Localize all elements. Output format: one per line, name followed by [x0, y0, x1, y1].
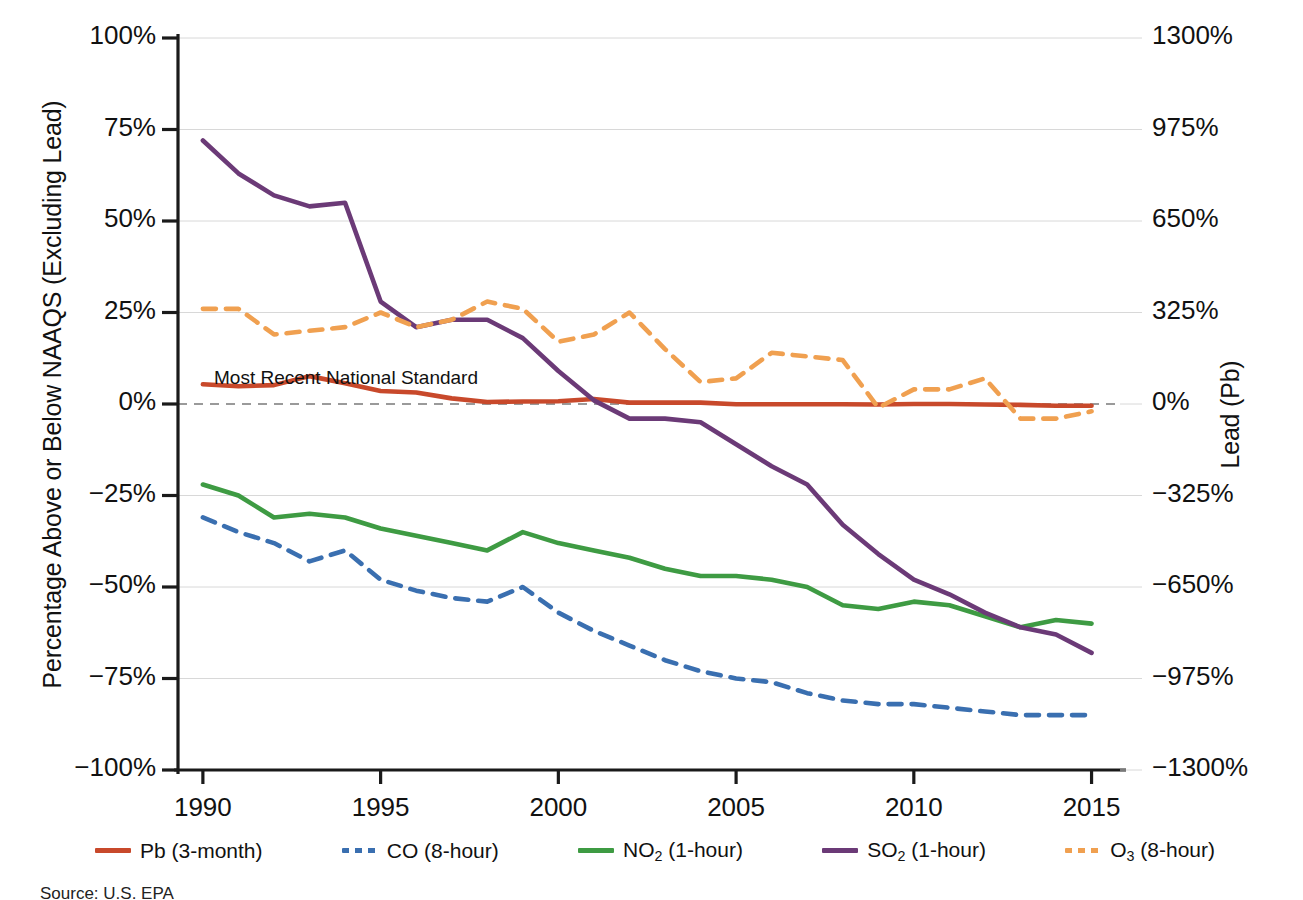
- y-tick-label-left: 50%: [104, 203, 156, 234]
- y-tick-label-left: −50%: [89, 569, 156, 600]
- y-tick-label-right: −1300%: [1152, 752, 1248, 783]
- x-tick-label: 1995: [321, 792, 441, 823]
- y-tick-label-right: 650%: [1152, 203, 1219, 234]
- series-line-co-8-hour: [203, 517, 1092, 715]
- x-tick-label: 2005: [676, 792, 796, 823]
- legend-item-so2-1-hour[interactable]: SO2 (1-hour): [822, 838, 986, 864]
- x-tick-label: 2000: [498, 792, 618, 823]
- legend-swatch-icon: [1065, 848, 1101, 853]
- legend-item-label: NO2 (1-hour): [623, 838, 743, 864]
- legend-swatch-icon: [95, 848, 131, 853]
- x-tick-label: 2010: [854, 792, 974, 823]
- legend-swatch-icon: [578, 848, 614, 853]
- series-line-no2-1-hour: [203, 485, 1092, 628]
- legend-item-label: O3 (8-hour): [1110, 838, 1215, 864]
- y-tick-label-right: −975%: [1152, 661, 1234, 692]
- y-tick-label-left: 100%: [90, 20, 157, 51]
- legend-item-o3-8-hour[interactable]: O3 (8-hour): [1065, 838, 1215, 864]
- y-tick-label-left: −25%: [89, 478, 156, 509]
- legend-item-no2-1-hour[interactable]: NO2 (1-hour): [578, 838, 743, 864]
- annotation-zero-reference-line-label: Most Recent National Standard: [214, 367, 478, 389]
- y-tick-label-left: 75%: [104, 112, 156, 143]
- y-tick-label-right: 325%: [1152, 295, 1219, 326]
- y-tick-label-right: −325%: [1152, 478, 1234, 509]
- chart-legend: Pb (3-month)CO (8-hour)NO2 (1-hour)SO2 (…: [95, 838, 1215, 864]
- x-tick-label: 2015: [1032, 792, 1152, 823]
- chart-plot-area: [0, 0, 1303, 900]
- y-tick-label-left: −75%: [89, 661, 156, 692]
- x-tick-label: 1990: [143, 792, 263, 823]
- air-quality-trend-chart: Percentage Above or Below NAAQS (Excludi…: [0, 0, 1303, 900]
- y-tick-label-left: −100%: [74, 752, 156, 783]
- source-note: Source: U.S. EPA: [40, 884, 174, 900]
- legend-item-label: Pb (3-month): [140, 839, 263, 863]
- y-tick-label-left: 25%: [104, 295, 156, 326]
- series-line-so2-1-hour: [203, 140, 1092, 652]
- y-tick-label-left: 0%: [118, 386, 156, 417]
- y-tick-label-right: 0%: [1152, 386, 1190, 417]
- legend-item-pb-3-month[interactable]: Pb (3-month): [95, 839, 263, 863]
- legend-swatch-icon: [342, 848, 378, 853]
- legend-item-label: CO (8-hour): [387, 839, 499, 863]
- y-tick-label-right: 975%: [1152, 112, 1219, 143]
- legend-swatch-icon: [822, 848, 858, 853]
- y-tick-label-right: −650%: [1152, 569, 1234, 600]
- y-tick-label-right: 1300%: [1152, 20, 1233, 51]
- legend-item-co-8-hour[interactable]: CO (8-hour): [342, 839, 499, 863]
- legend-item-label: SO2 (1-hour): [867, 838, 986, 864]
